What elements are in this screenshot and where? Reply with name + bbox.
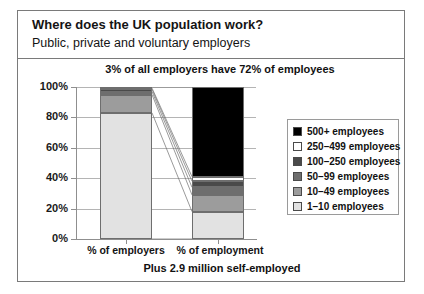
x-label-employers: % of employers [76, 244, 176, 256]
legend-item-label: 500+ employees [307, 126, 384, 137]
legend-item-label: 100–250 employees [307, 156, 400, 167]
y-axis-label: 40% [22, 171, 68, 183]
legend-item-label: 50–99 employees [307, 171, 389, 182]
y-axis-line [76, 87, 77, 240]
y-axis-label: 60% [22, 141, 68, 153]
connector-line [152, 89, 192, 181]
bar-segment [100, 87, 152, 89]
legend-item: 250–499 employees [293, 139, 400, 154]
legend-item-label: 250–499 employees [307, 141, 400, 152]
legend-item: 500+ employees [293, 124, 384, 139]
chart-footnote: Plus 2.9 million self-employed [18, 262, 404, 274]
y-axis-label: 80% [22, 110, 68, 122]
chart-legend: 500+ employees250–499 employees100–250 e… [287, 119, 399, 215]
legend-swatch-icon [293, 172, 302, 181]
bar-segment [100, 95, 152, 113]
legend-swatch-icon [293, 202, 302, 211]
bar-segment [192, 181, 244, 187]
y-axis-label: 20% [22, 202, 68, 214]
x-label-employment: % of employment [170, 244, 270, 256]
connector-line [152, 113, 192, 212]
connector-line [152, 88, 192, 177]
legend-item: 1–10 employees [293, 199, 384, 214]
chart-card: Where does the UK population work? Publi… [17, 10, 405, 282]
legend-item-label: 1–10 employees [307, 201, 384, 212]
y-axis-label: 100% [22, 80, 68, 92]
connector-line [152, 95, 192, 195]
bar-segment [192, 177, 244, 182]
bar-segment [100, 113, 152, 239]
bar-segment [192, 187, 244, 195]
legend-item-label: 10–49 employees [307, 186, 389, 197]
connector-line [152, 92, 192, 188]
bar-segment [192, 212, 244, 239]
bar-segment [100, 92, 152, 95]
y-axis-label: 0% [22, 232, 68, 244]
legend-item: 50–99 employees [293, 169, 389, 184]
bar-employment [192, 87, 244, 239]
legend-swatch-icon [293, 127, 302, 136]
legend-item: 10–49 employees [293, 184, 389, 199]
chart-footnote-text: Plus 2.9 million self-employed [143, 262, 300, 274]
legend-item: 100–250 employees [293, 154, 400, 169]
legend-swatch-icon [293, 187, 302, 196]
legend-swatch-icon [293, 142, 302, 151]
bar-employers [100, 87, 152, 239]
bar-segment [192, 195, 244, 212]
legend-swatch-icon [293, 157, 302, 166]
bar-segment [192, 87, 244, 177]
x-axis-line [76, 239, 257, 240]
